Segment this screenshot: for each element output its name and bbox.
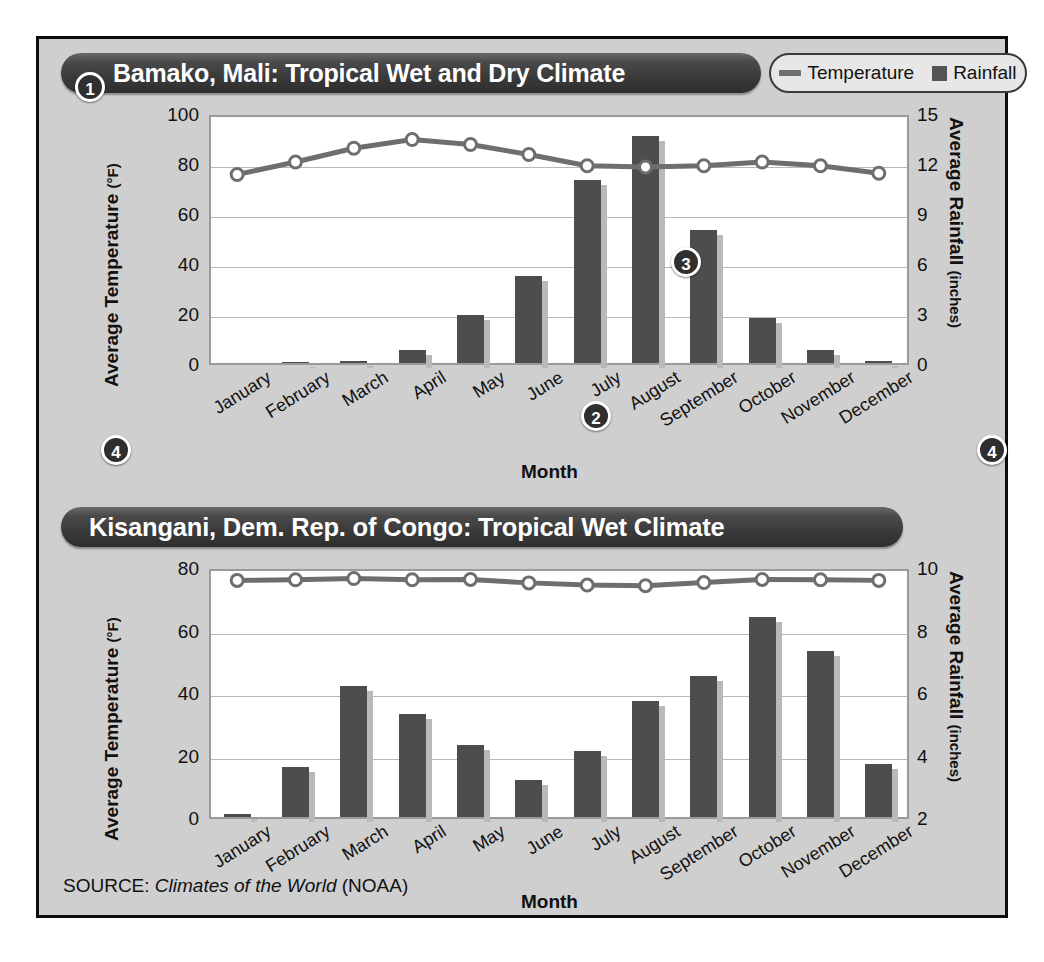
temperature-point: December: 77°F (873, 574, 885, 586)
y2-tick-label: 10 (917, 558, 938, 580)
temperature-point: April: 77.2°F (406, 574, 418, 586)
y2-tick-label: 6 (917, 254, 928, 276)
x-tick-label: May (469, 367, 509, 403)
y2-tick-label: 15 (917, 104, 938, 126)
temperature-point: September: 80.5°F (698, 160, 710, 172)
y-tick-label: 100 (167, 104, 199, 126)
temperature-line: January: 77°FFebruary: 82°FMarch: 87.5°F… (211, 117, 911, 367)
temperature-point: October: 77.3°F (756, 573, 768, 585)
callout-marker-4-right: 4 (977, 435, 1007, 465)
x-tick-label: March (338, 821, 392, 865)
temperature-point: January: 77°F (231, 574, 243, 586)
y2-tick-label: 9 (917, 204, 928, 226)
temperature-point: July: 75.5°F (581, 579, 593, 591)
legend-item-temperature: Temperature (779, 62, 914, 84)
chart-2-x-axis-title: Month (521, 891, 578, 913)
callout-marker-1: 1 (75, 72, 105, 102)
legend-item-rainfall: Rainfall (932, 62, 1016, 84)
chart-1-left-ticks: 020406080100 (157, 115, 199, 365)
x-tick-label: February (261, 821, 333, 877)
source-prefix: SOURCE: (63, 875, 155, 896)
x-tick-label: April (409, 367, 451, 404)
chart-1-x-axis-title: Month (521, 461, 578, 483)
chart-1-title: Bamako, Mali: Tropical Wet and Dry Clima… (113, 53, 625, 93)
legend-label-rainfall: Rainfall (953, 62, 1016, 84)
y-tick-label: 0 (188, 354, 199, 376)
x-tick-label: July (587, 821, 625, 856)
y-tick-label: 60 (178, 621, 199, 643)
temperature-point: November: 77.2°F (815, 574, 827, 586)
y-tick-label: 20 (178, 746, 199, 768)
chart-1-left-axis-title: Average Temperature (°F) (101, 163, 123, 387)
x-tick-label: June (523, 367, 567, 406)
y-tick-label: 60 (178, 204, 199, 226)
x-tick-label: March (338, 367, 392, 411)
chart-kisangani: January: 77°FFebruary: 77.2°FMarch: 77.6… (61, 555, 1003, 925)
temperature-point: June: 85°F (523, 149, 535, 161)
x-tick-label: April (409, 821, 451, 858)
temperature-point: March: 77.6°F (348, 573, 360, 585)
temperature-point: December: 77.5°F (873, 167, 885, 179)
y-tick-label: 40 (178, 683, 199, 705)
legend-label-temperature: Temperature (807, 62, 914, 84)
y2-tick-label: 8 (917, 621, 928, 643)
temperature-point: January: 77°F (231, 169, 243, 181)
temperature-point: May: 77.3°F (465, 573, 477, 585)
callout-marker-2: 2 (581, 401, 611, 431)
chart-2-title-banner: Kisangani, Dem. Rep. of Congo: Tropical … (61, 507, 903, 547)
chart-bamako: January: 77°FFebruary: 82°FMarch: 87.5°F… (61, 101, 1003, 501)
temperature-point: August: 80°F (640, 161, 652, 173)
temperature-point: September: 76.3°F (698, 577, 710, 589)
chart-legend: Temperature Rainfall (769, 53, 1027, 93)
source-note: SOURCE: Climates of the World (NOAA) (63, 875, 408, 897)
chart-1-title-banner: 1 Bamako, Mali: Tropical Wet and Dry Cli… (61, 53, 761, 93)
temperature-point: August: 75.3°F (640, 580, 652, 592)
chart-2-left-ticks: 020406080 (157, 569, 199, 819)
chart-1-right-axis-title: Average Rainfall (inches) (945, 117, 967, 328)
y-tick-label: 80 (178, 154, 199, 176)
temperature-point: February: 77.2°F (290, 574, 302, 586)
temperature-point: May: 89°F (465, 139, 477, 151)
legend-bar-swatch-icon (932, 66, 947, 81)
temperature-point: October: 82°F (756, 156, 768, 168)
chart-2-title: Kisangani, Dem. Rep. of Congo: Tropical … (89, 507, 724, 547)
temperature-point: February: 82°F (290, 156, 302, 168)
callout-marker-4-left: 4 (101, 435, 131, 465)
chart-1-plot-area: January: 77°FFebruary: 82°FMarch: 87.5°F… (209, 115, 909, 365)
figure-frame: 1 Bamako, Mali: Tropical Wet and Dry Cli… (36, 36, 1008, 918)
y-tick-label: 40 (178, 254, 199, 276)
x-tick-label: February (261, 367, 333, 423)
temperature-point: April: 91°F (406, 134, 418, 146)
y2-tick-label: 4 (917, 746, 928, 768)
chart-2-left-axis-title: Average Temperature (°F) (101, 617, 123, 841)
y2-tick-label: 0 (917, 354, 928, 376)
y-tick-label: 20 (178, 304, 199, 326)
source-title: Climates of the World (155, 875, 337, 896)
y-tick-label: 80 (178, 558, 199, 580)
y2-tick-label: 6 (917, 683, 928, 705)
climate-chart-page: 1 Bamako, Mali: Tropical Wet and Dry Cli… (0, 0, 1044, 962)
y-tick-label: 0 (188, 808, 199, 830)
temperature-point: July: 80.5°F (581, 160, 593, 172)
temperature-point: March: 87.5°F (348, 142, 360, 154)
y2-tick-label: 12 (917, 154, 938, 176)
y2-tick-label: 3 (917, 304, 928, 326)
y2-tick-label: 2 (917, 808, 928, 830)
chart-1-x-tick-labels: JanuaryFebruaryMarchAprilMayJuneJulyAugu… (209, 367, 909, 457)
x-tick-label: May (469, 821, 509, 857)
temperature-line: January: 77°FFebruary: 77.2°FMarch: 77.6… (211, 571, 911, 821)
chart-2-right-axis-title: Average Rainfall (inches) (945, 571, 967, 782)
temperature-point: June: 76.2°F (523, 577, 535, 589)
temperature-point: November: 80.5°F (815, 160, 827, 172)
callout-marker-3: 3 (671, 247, 701, 277)
chart-2-plot-area: January: 77°FFebruary: 77.2°FMarch: 77.6… (209, 569, 909, 819)
x-tick-label: July (587, 367, 625, 402)
x-tick-label: June (523, 821, 567, 860)
source-suffix: (NOAA) (336, 875, 408, 896)
legend-line-swatch-icon (779, 70, 801, 76)
